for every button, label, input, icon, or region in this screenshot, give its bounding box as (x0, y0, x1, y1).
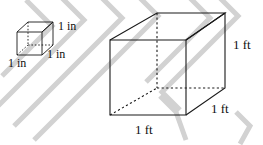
small-cube-height-label: 1 in (47, 48, 65, 60)
watermark-chevron-4 (34, 0, 158, 140)
small-cube-width-label: 1 in (8, 57, 26, 69)
large-cube-width-label: 1 ft (135, 123, 153, 136)
large-cube-depth-label: 1 ft (211, 102, 229, 115)
watermark-chevron-8 (236, 112, 250, 144)
geometry-figure: 1 in 1 in 1 in 1 ft 1 ft 1 ft (0, 0, 263, 145)
small-cube-depth-label: 1 in (58, 20, 76, 32)
figure-canvas (0, 0, 263, 145)
large-cube-hidden-diagonal (110, 88, 157, 115)
large-cube-height-label: 1 ft (233, 38, 251, 51)
